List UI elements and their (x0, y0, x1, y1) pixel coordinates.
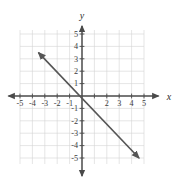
coordinate-plane-figure: -5 -4 -3 -2 -1 2 3 4 5 5 4 3 2 1 -1 -2 -… (0, 0, 180, 183)
y-axis-label: y (79, 10, 85, 21)
x-tick-label: -3 (41, 99, 48, 108)
y-tick-label: -3 (71, 129, 78, 138)
y-tick-label: -1 (71, 104, 78, 113)
x-tick-label: -4 (29, 99, 36, 108)
x-tick-label: 2 (105, 99, 109, 108)
y-tick-label: 4 (74, 42, 78, 51)
y-tick-label: -4 (71, 141, 78, 150)
y-tick-label: 2 (74, 67, 78, 76)
x-tick-label: -2 (54, 99, 61, 108)
y-tick-label: 3 (74, 55, 78, 64)
y-tick-label: 5 (74, 30, 78, 39)
x-axis-label: x (166, 91, 172, 102)
graph-canvas: -5 -4 -3 -2 -1 2 3 4 5 5 4 3 2 1 -1 -2 -… (0, 0, 180, 183)
y-tick-label: -2 (71, 117, 78, 126)
x-tick-label: -5 (17, 99, 24, 108)
x-tick-label: 4 (130, 99, 134, 108)
y-tick-label: -5 (71, 154, 78, 163)
y-tick-label: 1 (74, 79, 78, 88)
x-tick-label: 3 (117, 99, 121, 108)
x-tick-label: 5 (142, 99, 146, 108)
